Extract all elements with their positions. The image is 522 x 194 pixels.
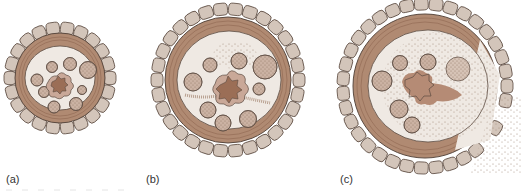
panel-b bbox=[151, 3, 305, 158]
panel-a bbox=[4, 22, 116, 135]
panel-c bbox=[337, 0, 522, 175]
panel-label-c: (c) bbox=[340, 173, 353, 185]
panel-label-b: (b) bbox=[146, 173, 159, 185]
cross-section-figure bbox=[0, 0, 522, 194]
panel-label-a: (a) bbox=[6, 173, 19, 185]
